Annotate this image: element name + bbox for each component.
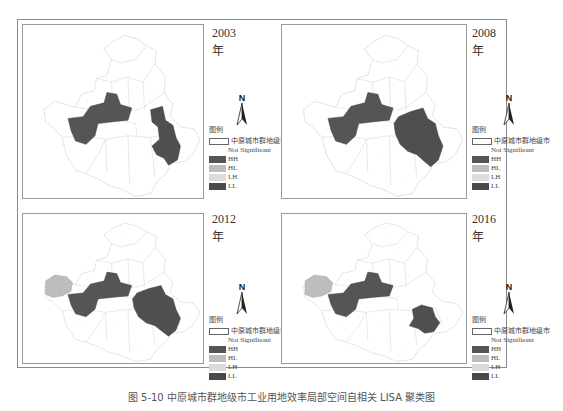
hh-swatch <box>472 346 489 353</box>
legend: 图例 中原城市群地级市 Not Signifieant HH HL LH LL <box>209 126 287 191</box>
north-arrow-icon: N <box>499 282 519 318</box>
year-label: 2016年 <box>472 212 496 245</box>
boundary-swatch <box>472 138 492 145</box>
ll-swatch <box>472 183 489 190</box>
ll-swatch <box>209 183 226 190</box>
north-arrow-icon: N <box>232 93 252 129</box>
year-label: 2008年 <box>472 26 496 59</box>
lh-swatch <box>472 364 489 371</box>
boundary-swatch <box>209 328 229 335</box>
hh-swatch <box>209 156 226 163</box>
map-2003 <box>22 24 204 199</box>
legend: 图例 中原城市群地级市 Not Signifieant HH HL LH LL <box>472 126 550 191</box>
year-label: 2012年 <box>212 212 236 245</box>
boundary-swatch <box>209 138 229 145</box>
hl-swatch <box>472 355 489 362</box>
north-arrow-icon: N <box>232 282 252 318</box>
hl-swatch <box>209 355 226 362</box>
hl-swatch <box>209 165 226 172</box>
ll-swatch <box>209 373 226 380</box>
legend: 图例 中原城市群地级市 Not Signifieant HH HL LH LL <box>472 316 550 381</box>
hh-swatch <box>472 156 489 163</box>
map-2008 <box>281 24 467 199</box>
lh-swatch <box>209 364 226 371</box>
ll-swatch <box>472 373 489 380</box>
lh-swatch <box>209 174 226 181</box>
map-2012 <box>22 213 204 364</box>
lh-swatch <box>472 174 489 181</box>
map-2016 <box>281 213 467 364</box>
north-arrow-icon: N <box>499 93 519 129</box>
hl-swatch <box>472 165 489 172</box>
boundary-swatch <box>472 328 492 335</box>
legend: 图例 中原城市群地级市 Not Signifieant HH HL LH LL <box>209 316 287 381</box>
figure-caption: 图 5-10 中原城市群地级市工业用地效率局部空间自相关 LISA 聚类图 <box>0 389 563 404</box>
year-label: 2003年 <box>212 26 236 59</box>
hh-swatch <box>209 346 226 353</box>
